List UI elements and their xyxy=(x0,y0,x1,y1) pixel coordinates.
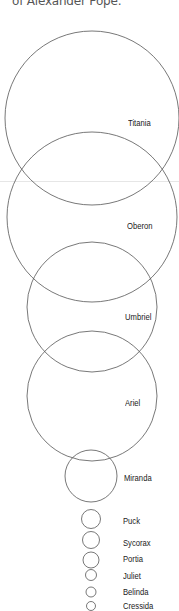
moon-label-sycorax: Sycorax xyxy=(123,538,151,548)
moon-circle-ariel xyxy=(27,331,157,461)
moon-label-titania: Titania xyxy=(128,118,151,128)
moon-circle-belinda xyxy=(86,587,96,597)
moon-circle-sycorax xyxy=(83,532,100,549)
moon-circle-juliet xyxy=(86,570,97,581)
moon-circle-oberon xyxy=(7,132,177,302)
moon-label-cressida: Cressida xyxy=(123,601,153,611)
moon-label-juliet: Juliet xyxy=(123,571,141,581)
moon-circle-portia xyxy=(83,552,99,568)
moon-label-portia: Portia xyxy=(123,554,143,564)
moon-circle-umbriel xyxy=(27,242,157,372)
moon-circle-puck xyxy=(82,510,101,529)
moon-label-umbriel: Umbriel xyxy=(125,312,151,322)
moon-label-miranda: Miranda xyxy=(124,473,152,483)
moon-label-oberon: Oberon xyxy=(127,221,153,231)
moon-label-puck: Puck xyxy=(123,516,140,526)
moon-circle-titania xyxy=(5,31,179,205)
moon-circle-miranda xyxy=(65,450,117,502)
moon-circle-cressida xyxy=(87,602,96,611)
moon-label-belinda: Belinda xyxy=(123,587,149,597)
moon-size-diagram xyxy=(0,0,179,611)
moon-label-ariel: Ariel xyxy=(125,398,140,408)
